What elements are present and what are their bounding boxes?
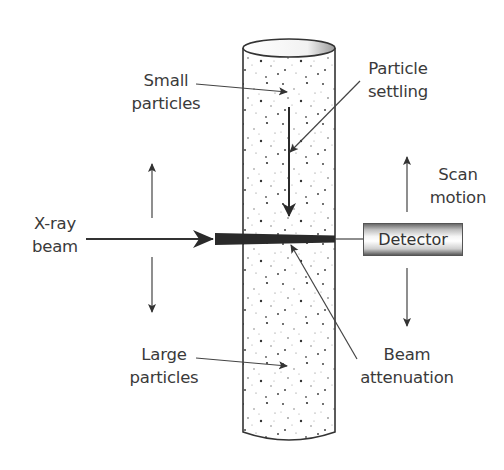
small-particles-label: Small particles bbox=[126, 69, 206, 115]
particle-settling-label: Particle settling bbox=[358, 57, 438, 103]
scan-motion-label: Scan motion bbox=[418, 163, 498, 209]
sedimentation-diagram: Detector Small particles Particle settli… bbox=[0, 0, 504, 470]
detector-box: Detector bbox=[363, 223, 463, 256]
beam-attenuation-label: Beam attenuation bbox=[350, 343, 464, 389]
detector-label: Detector bbox=[378, 230, 448, 249]
xray-beam-label: X-ray beam bbox=[20, 212, 90, 258]
large-particles-label: Large particles bbox=[124, 343, 204, 389]
